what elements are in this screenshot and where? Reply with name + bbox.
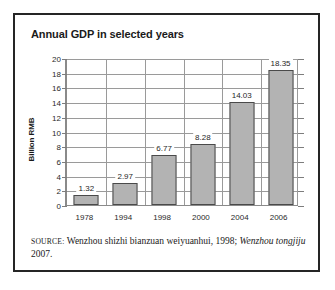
x-axis-tick-label: 1978 [76,213,94,222]
y-axis-tick-label: 16 [52,84,61,93]
y-axis-title: Billion RMB [27,110,36,170]
bar-value-label: 2.97 [115,172,135,181]
x-axis-tick-label: 2004 [231,213,249,222]
y-axis-tick-labels: 02468101214161820 [41,59,61,206]
y-axis-tick-label: 18 [52,69,61,78]
plot-block: Billion RMB 02468101214161820 1.322.976.… [15,59,318,234]
bar-value-label: 1.32 [77,184,97,193]
bar-slot: 14.03 [222,59,261,205]
x-axis-tick-label: 2006 [270,213,288,222]
bar-slot: 6.77 [145,59,184,205]
source-label: Source: [31,237,64,246]
chart-title: Annual GDP in selected years [31,28,184,40]
bar-slot: 18.35 [261,59,300,205]
x-axis-tick-labels: 197819941998200020042006 [65,213,298,227]
bar-value-label: 6.77 [154,144,174,153]
bar-value-label: 14.03 [230,91,254,100]
y-axis-tick-label: 14 [52,99,61,108]
y-axis-tick-label: 20 [52,55,61,64]
y-axis-tick-label: 4 [57,172,61,181]
y-axis-tick-label: 10 [52,128,61,137]
x-axis-tick-label: 1998 [153,213,171,222]
bar[interactable] [229,102,254,205]
y-axis-tick-mark [62,206,67,207]
y-axis-tick-label: 2 [57,187,61,196]
bar-slot: 8.28 [184,59,223,205]
bar[interactable] [190,144,215,205]
plot-area: 1.322.976.778.2814.0318.35 [65,59,298,206]
source-note: Source: Wenzhou shizhi bianzuan weiyuanh… [31,235,306,261]
bar-slot: 1.32 [67,59,106,205]
source-italic-1: Wenzhou tongjiju [240,236,306,246]
source-text-1: Wenzhou shizhi bianzuan weiyuanhui, 1998… [64,236,239,246]
bar[interactable] [113,183,138,205]
bar[interactable] [74,195,99,205]
bar-slot: 2.97 [106,59,145,205]
y-axis-tick-label: 12 [52,113,61,122]
bar[interactable] [152,155,177,205]
y-axis-tick-label: 8 [57,143,61,152]
bar[interactable] [268,70,293,205]
bar-value-label: 18.35 [269,59,293,68]
source-text-2: 2007. [31,249,52,259]
y-axis-tick-label: 0 [57,202,61,211]
y-axis-tick-label: 6 [57,157,61,166]
x-axis-tick-label: 1994 [114,213,132,222]
x-axis-tick-label: 2000 [192,213,210,222]
figure-panel: Annual GDP in selected years Billion RMB… [13,13,320,272]
bar-value-label: 8.28 [193,133,213,142]
y-axis-tick-mark-right [298,206,304,207]
